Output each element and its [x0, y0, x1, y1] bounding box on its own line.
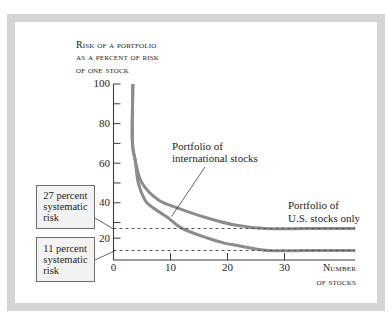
- x-axis-title-line-2: of stocks: [316, 275, 356, 289]
- y-tick-label: 20: [99, 233, 110, 244]
- box-27-line-2: systematic: [43, 201, 93, 212]
- y-tick-label: 60: [99, 158, 110, 169]
- systematic-risk-11-box: 11 percent systematic risk: [36, 237, 95, 282]
- x-tick-label: 30: [279, 262, 290, 273]
- us-stocks-label: Portfolio of U.S. stocks only: [288, 199, 360, 225]
- y-tick-label: 80: [99, 118, 110, 129]
- y-axis-title-line-3: of one stock: [76, 64, 159, 77]
- x-axis-title: Number of stocks: [316, 261, 356, 289]
- x-tick-label: 10: [165, 262, 176, 273]
- callout-line-international: [172, 167, 206, 217]
- x-axis-title-line-1: Number: [316, 261, 356, 275]
- curves-layer: [132, 84, 355, 251]
- y-tick-label: 100: [94, 78, 111, 89]
- box-11-line-2: systematic: [43, 254, 93, 265]
- box-11-line-3: risk: [43, 265, 93, 276]
- callout-line-27-percent: [95, 218, 114, 229]
- x-tick-label: 20: [222, 262, 233, 273]
- us-label-line-1: Portfolio of: [288, 199, 360, 212]
- box-11-line-1: 11 percent: [43, 243, 93, 254]
- callout-line-11-percent: [95, 251, 115, 260]
- box-27-line-1: 27 percent: [43, 190, 93, 201]
- box-27-line-3: risk: [43, 212, 93, 223]
- international-label-line-1: Portfolio of: [172, 140, 258, 152]
- reference-lines-layer: [114, 229, 356, 251]
- axes-layer: [114, 84, 356, 260]
- international-stocks-label: Portfolio of international stocks: [172, 140, 258, 164]
- y-axis-title: Risk of a portfolio as a percent of risk…: [76, 39, 159, 77]
- international-label-line-2: international stocks: [172, 152, 258, 164]
- x-tick-label: 0: [111, 262, 117, 273]
- y-tick-label: 40: [99, 197, 110, 208]
- y-axis-title-line-2: as a percent of risk: [76, 51, 159, 64]
- systematic-risk-27-box: 27 percent systematic risk: [36, 185, 95, 230]
- us-label-line-2: U.S. stocks only: [288, 212, 360, 225]
- y-axis-title-line-1: Risk of a portfolio: [76, 39, 159, 52]
